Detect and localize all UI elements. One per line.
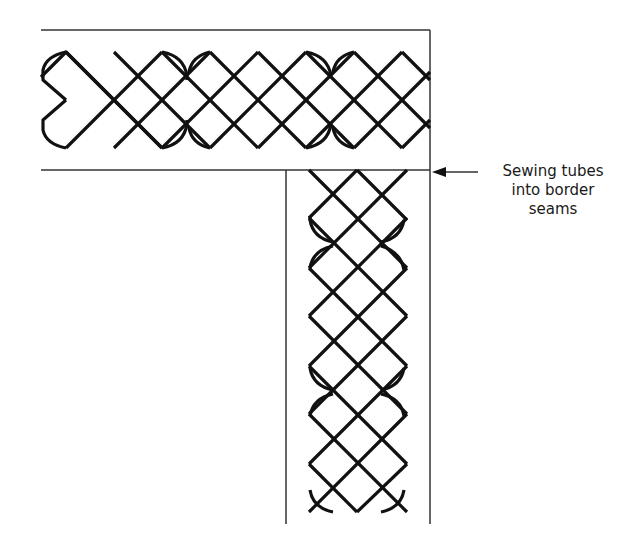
- annotation-line-2: into border: [478, 181, 628, 200]
- annotation-line-1: Sewing tubes: [478, 162, 628, 181]
- border-diagram: [0, 0, 632, 545]
- horizontal-tube-lattice: [41, 52, 430, 148]
- vertical-tube-lattice: [309, 170, 407, 512]
- annotation-arrow: [432, 167, 478, 177]
- annotation-label: Sewing tubes into border seams: [478, 162, 628, 219]
- annotation-line-3: seams: [478, 200, 628, 219]
